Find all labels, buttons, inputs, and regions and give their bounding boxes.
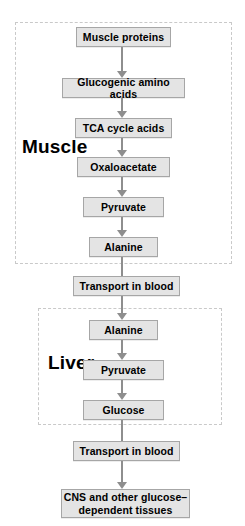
- arrow-muscle-proteins-to-glucogenic-amino-acids: [117, 47, 128, 78]
- arrow-oxaloacetate-to-pyruvate-muscle: [117, 177, 128, 197]
- node-glucose[interactable]: Glucose: [83, 400, 164, 420]
- node-tca-cycle-acids[interactable]: TCA cycle acids: [75, 118, 172, 138]
- arrow-glucogenic-amino-acids-to-tca-cycle-acids: [117, 98, 128, 118]
- arrow-pyruvate-liver-to-glucose: [117, 380, 128, 400]
- node-cns-tissues-line2: dependent tissues: [79, 504, 173, 516]
- node-muscle-proteins[interactable]: Muscle proteins: [76, 27, 171, 47]
- node-glucogenic-amino-acids[interactable]: Glucogenic amino acids: [62, 78, 185, 98]
- flowchart-diagram: Muscle Liver Muscle proteins Glucogenic …: [0, 0, 245, 526]
- node-transport-in-blood-2[interactable]: Transport in blood: [73, 441, 180, 461]
- arrow-transport-in-blood-2-to-cns-tissues: [117, 461, 128, 489]
- node-pyruvate-muscle[interactable]: Pyruvate: [83, 197, 164, 217]
- node-pyruvate-liver[interactable]: Pyruvate: [83, 360, 164, 380]
- node-alanine-liver[interactable]: Alanine: [89, 320, 158, 340]
- arrow-tca-cycle-acids-to-oxaloacetate: [117, 138, 128, 157]
- arrow-alanine-muscle-to-transport-in-blood-1: [117, 257, 128, 276]
- arrow-alanine-liver-to-pyruvate-liver: [117, 340, 128, 360]
- arrow-glucose-to-transport-in-blood-2: [117, 420, 128, 441]
- arrow-pyruvate-muscle-to-alanine-muscle: [117, 217, 128, 237]
- arrow-transport-in-blood-1-to-alanine-liver: [117, 296, 128, 320]
- node-cns-tissues[interactable]: CNS and other glucose– dependent tissues: [61, 489, 190, 518]
- node-alanine-muscle[interactable]: Alanine: [89, 237, 158, 257]
- node-transport-in-blood-1[interactable]: Transport in blood: [73, 276, 180, 296]
- node-oxaloacetate[interactable]: Oxaloacetate: [77, 157, 170, 177]
- node-cns-tissues-line1: CNS and other glucose–: [64, 491, 188, 503]
- region-label-muscle: Muscle: [22, 136, 88, 158]
